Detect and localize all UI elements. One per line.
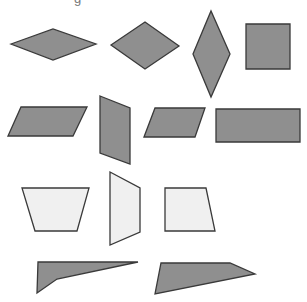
shape-rhombus-wide bbox=[11, 29, 96, 60]
shapes-canvas bbox=[0, 0, 307, 302]
shape-irregular-quadrilateral bbox=[155, 263, 255, 294]
shape-parallelogram-small bbox=[144, 108, 205, 137]
shape-concave-quadrilateral bbox=[37, 262, 138, 293]
shape-square bbox=[246, 24, 290, 69]
shape-parallelogram-left bbox=[8, 107, 87, 136]
shape-rectangle bbox=[216, 109, 300, 142]
shape-trapezoid-vertical bbox=[110, 172, 140, 245]
shape-rhombus-tall bbox=[193, 11, 230, 97]
shape-trapezoid-isosceles bbox=[22, 188, 89, 231]
shape-trapezoid-right bbox=[165, 188, 215, 231]
shape-rhombus-medium bbox=[111, 22, 179, 69]
shape-parallelogram-vertical bbox=[100, 96, 130, 164]
